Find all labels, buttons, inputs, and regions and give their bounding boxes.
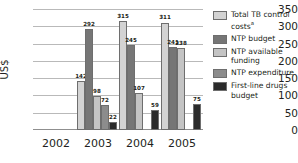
- x-tick-label-2005: 2005: [168, 137, 196, 150]
- x-tick-label-2003: 2003: [84, 137, 112, 150]
- x-tick-label-2002: 2002: [42, 137, 70, 150]
- legend-item-ntp-available-funding: NTP available funding: [213, 47, 298, 65]
- y-tick-label-0: 0: [268, 125, 298, 136]
- bar-2004-first-line-drugs-budget: [151, 110, 159, 130]
- bar-group-2005: 311 241 238 75: [161, 9, 199, 130]
- bar-group-2004: 315 245 107 59: [119, 9, 157, 130]
- bar-label-2003-expenditure: 72: [98, 98, 112, 104]
- legend-label-ntp-available-funding: NTP available funding: [231, 47, 298, 65]
- x-tick-label-2004: 2004: [126, 137, 154, 150]
- legend-label-first-line-drugs-budget: First-line drugs budget: [231, 81, 298, 99]
- legend-label-ntp-budget: NTP budget: [231, 34, 275, 43]
- bar-2005-ntp-available-funding: [177, 48, 185, 130]
- bar-group-2002: [37, 9, 75, 130]
- bar-label-2004-budget: 245: [124, 38, 138, 44]
- legend-item-total-tb-control-costs: Total TB control costsa: [213, 10, 298, 31]
- legend-item-ntp-expenditure: NTP expenditure: [213, 68, 298, 78]
- bar-label-2004-available: 107: [132, 86, 146, 92]
- bar-label-2005-drugs: 75: [190, 97, 204, 103]
- y-axis-title: US$: [0, 59, 10, 79]
- legend-swatch-icon-total-tb-control-costs: [213, 11, 227, 20]
- legend-label-total-tb-control-costs: Total TB control costsa: [231, 10, 298, 31]
- bar-group-2003: 142 292 98 72 22: [77, 9, 115, 130]
- legend-swatch-icon-ntp-expenditure: [213, 69, 227, 78]
- legend-item-ntp-budget: NTP budget: [213, 34, 298, 44]
- y-tick-label-50: 50: [268, 107, 298, 118]
- bars-layer: 142 292 98 72 22 315 245 107 59 311: [33, 9, 203, 130]
- bar-label-2004-total: 315: [116, 14, 130, 20]
- bar-2003-first-line-drugs-budget: [109, 122, 117, 130]
- legend-swatch-icon-ntp-budget: [213, 35, 227, 44]
- bar-2004-ntp-available-funding: [135, 93, 143, 130]
- bar-label-2005-total: 311: [158, 15, 172, 21]
- legend-item-first-line-drugs-budget: First-line drugs budget: [213, 81, 298, 99]
- legend-swatch-icon-ntp-available-funding: [213, 48, 227, 57]
- bar-label-2003-available: 98: [90, 89, 104, 95]
- chart-legend: Total TB control costsa NTP budget NTP a…: [213, 10, 298, 103]
- legend-label-ntp-expenditure: NTP expenditure: [231, 68, 294, 77]
- bar-2005-first-line-drugs-budget: [193, 104, 201, 130]
- bar-label-2003-drugs: 22: [106, 115, 120, 121]
- bar-chart: 350 300 250 200 150 100 50 0 US$ 142 292…: [0, 0, 298, 163]
- bar-2003-total-tb-control-costs: [77, 81, 85, 130]
- bar-label-2003-budget: 292: [82, 22, 96, 28]
- bar-2003-ntp-budget: [85, 29, 93, 130]
- legend-swatch-icon-first-line-drugs-budget: [213, 82, 227, 91]
- bar-2005-ntp-budget: [169, 47, 177, 130]
- bar-label-2004-drugs: 59: [148, 103, 162, 109]
- bar-label-2005-available: 238: [174, 41, 188, 47]
